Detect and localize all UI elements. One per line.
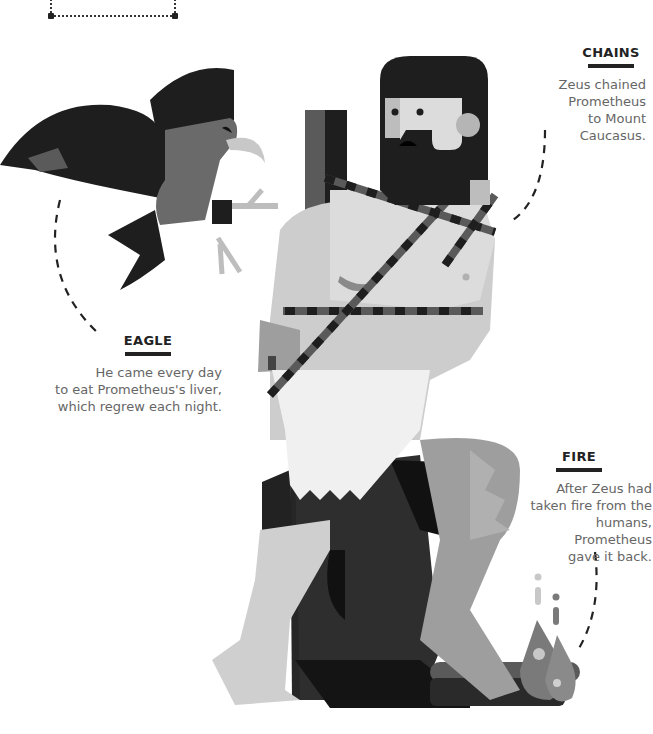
eagle-figure	[0, 68, 278, 290]
label-line: to eat Prometheus's liver,	[22, 381, 222, 398]
label-line: He came every day	[22, 364, 222, 381]
label-body: After Zeus had taken fire from the human…	[516, 480, 652, 565]
label-title: CHAINS	[582, 45, 639, 60]
label-line: taken fire from the	[516, 497, 652, 514]
illustration-stage: benefactor.	[0, 0, 653, 734]
title-underline	[556, 468, 602, 472]
title-underline	[588, 64, 634, 68]
label-line: humans, Prometheus	[516, 514, 652, 548]
label-chains: CHAINS Zeus chained Prometheus to Mount …	[526, 42, 646, 144]
label-eagle: EAGLE He came every day to eat Prometheu…	[22, 330, 222, 415]
label-line: which regrew each night.	[22, 398, 222, 415]
title-underline	[125, 352, 171, 356]
label-body: Zeus chained Prometheus to Mount Caucasu…	[526, 76, 646, 144]
label-line: After Zeus had	[516, 480, 652, 497]
leader-line-fire	[578, 552, 597, 650]
label-line: Prometheus	[526, 93, 646, 110]
label-line: gave it back.	[516, 548, 652, 565]
label-line: to Mount Caucasus.	[526, 110, 646, 144]
fire-flames	[520, 574, 576, 702]
prometheus-head	[380, 56, 490, 205]
label-fire: FIRE After Zeus had taken fire from the …	[516, 446, 652, 565]
label-title: FIRE	[562, 449, 596, 464]
label-line: Zeus chained	[526, 76, 646, 93]
leader-line-eagle	[55, 200, 100, 335]
label-body: He came every day to eat Prometheus's li…	[22, 364, 222, 415]
label-title: EAGLE	[124, 333, 172, 348]
